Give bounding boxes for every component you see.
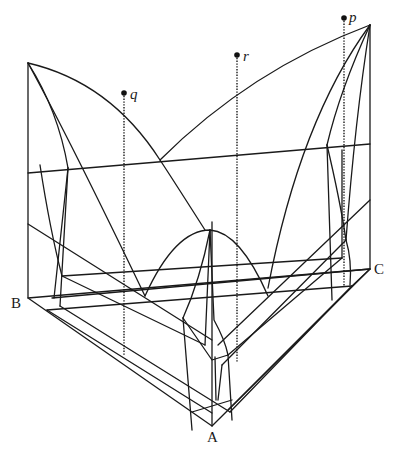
vertex-label-A: A: [207, 429, 218, 445]
prism-base: [28, 25, 370, 444]
label-q: q: [130, 86, 138, 102]
point-q-marker: [121, 90, 127, 96]
label-r: r: [243, 48, 249, 64]
composition-lines: [124, 18, 344, 363]
liquidus-curves: [28, 25, 370, 296]
point-r-marker: [234, 52, 240, 58]
label-p: p: [348, 9, 357, 25]
point-p-marker: [341, 15, 347, 21]
ternary-phase-diagram: q r p A B C: [0, 0, 401, 456]
binary-edge-C: [218, 145, 370, 365]
vertex-label-C: C: [374, 261, 384, 277]
vertex-label-B: B: [11, 295, 21, 311]
